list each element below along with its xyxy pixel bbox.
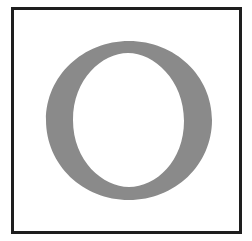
letter-o-glyph	[0, 0, 252, 241]
letter-o-shape	[46, 41, 212, 200]
